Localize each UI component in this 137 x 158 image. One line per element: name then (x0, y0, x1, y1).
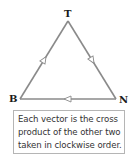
vertex-label-t: T (64, 9, 71, 19)
vertex-label-n: N (119, 95, 128, 105)
arrow-head-icon-b-t (40, 55, 49, 64)
caption-line-3: taken in clockwise order. (18, 139, 121, 152)
caption-line-2: product of the other two (18, 126, 121, 139)
arrow-head-icon-n-b (64, 96, 71, 102)
vertex-label-b: B (9, 94, 17, 104)
tnb-triangle-diagram: T B N (0, 0, 137, 108)
arrow-head-icon-t-n (88, 56, 97, 65)
caption-line-1: Each vector is the cross (18, 113, 121, 126)
caption-box: Each vector is the cross product of the … (13, 110, 125, 154)
